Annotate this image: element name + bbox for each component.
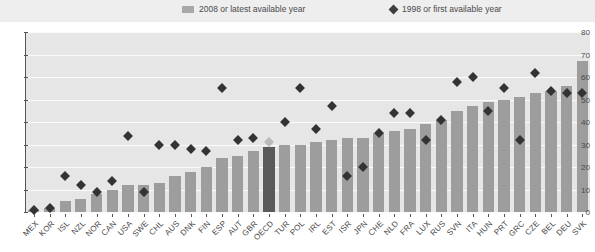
bar-column[interactable] <box>308 32 324 212</box>
bar[interactable] <box>185 172 196 213</box>
bar[interactable] <box>436 120 447 212</box>
bar-column[interactable] <box>136 32 152 212</box>
y-tick-label: 70 <box>570 50 590 59</box>
data-point-marker[interactable] <box>60 171 70 181</box>
bar-column[interactable] <box>245 32 261 212</box>
chart-legend: 2008 or latest available year 1998 or fi… <box>0 0 595 22</box>
bar[interactable] <box>389 131 400 212</box>
bar[interactable] <box>279 145 290 213</box>
bar-column[interactable] <box>418 32 434 212</box>
y-tick-label: 40 <box>570 118 590 127</box>
data-point-marker[interactable] <box>217 83 227 93</box>
bar[interactable] <box>514 97 525 212</box>
bar[interactable] <box>498 100 509 213</box>
x-tick-label: JPN <box>352 219 369 236</box>
bar[interactable] <box>154 183 165 212</box>
bar-column[interactable] <box>42 32 58 212</box>
bar-column[interactable] <box>261 32 277 212</box>
bar[interactable] <box>310 142 321 212</box>
data-point-marker[interactable] <box>154 140 164 150</box>
bar-column[interactable] <box>496 32 512 212</box>
data-point-marker[interactable] <box>405 108 415 118</box>
x-tick-mark <box>238 214 239 217</box>
bar[interactable] <box>75 199 86 213</box>
bar[interactable] <box>107 190 118 213</box>
y-tick-label: 30 <box>570 140 590 149</box>
bar-column[interactable] <box>214 32 230 212</box>
bar-column[interactable] <box>120 32 136 212</box>
bar[interactable] <box>357 138 368 212</box>
data-point-marker[interactable] <box>233 135 243 145</box>
bar-column[interactable] <box>512 32 528 212</box>
bar[interactable] <box>467 106 478 212</box>
x-tick-mark <box>50 214 51 217</box>
bar-column[interactable] <box>543 32 559 212</box>
bar-column[interactable] <box>402 32 418 212</box>
bar-column[interactable] <box>89 32 105 212</box>
bar-column[interactable] <box>433 32 449 212</box>
bar[interactable] <box>451 111 462 212</box>
data-point-marker[interactable] <box>280 117 290 127</box>
data-point-marker[interactable] <box>248 133 258 143</box>
bar[interactable] <box>404 129 415 212</box>
data-point-marker[interactable] <box>295 83 305 93</box>
data-point-marker[interactable] <box>76 180 86 190</box>
bar-column[interactable] <box>230 32 246 212</box>
bar-column[interactable] <box>57 32 73 212</box>
bar[interactable] <box>545 91 556 213</box>
data-point-marker[interactable] <box>530 68 540 78</box>
x-tick-mark <box>65 214 66 217</box>
legend-item-marker-series: 1998 or first available year <box>390 4 502 14</box>
data-point-marker[interactable] <box>452 77 462 87</box>
bar[interactable] <box>373 133 384 212</box>
bar[interactable] <box>169 176 180 212</box>
data-point-marker[interactable] <box>186 144 196 154</box>
bar-column[interactable] <box>339 32 355 212</box>
bar-column[interactable] <box>355 32 371 212</box>
bar-column[interactable] <box>292 32 308 212</box>
bar[interactable] <box>216 158 227 212</box>
data-point-marker[interactable] <box>499 83 509 93</box>
data-point-marker[interactable] <box>264 137 274 147</box>
bar[interactable] <box>60 201 71 212</box>
x-tick-column: KOR <box>42 214 58 252</box>
bar[interactable] <box>122 185 133 212</box>
data-point-marker[interactable] <box>311 124 321 134</box>
bar[interactable] <box>232 156 243 212</box>
bar[interactable] <box>530 93 541 212</box>
bar-column[interactable] <box>277 32 293 212</box>
bar-column[interactable] <box>104 32 120 212</box>
x-tick-mark <box>410 214 411 217</box>
bar[interactable] <box>326 140 337 212</box>
bar-column[interactable] <box>151 32 167 212</box>
data-point-marker[interactable] <box>327 101 337 111</box>
bar-column[interactable] <box>198 32 214 212</box>
x-tick-mark <box>112 214 113 217</box>
data-point-marker[interactable] <box>468 72 478 82</box>
bar[interactable] <box>483 102 494 212</box>
bar[interactable] <box>248 151 259 212</box>
bar-column[interactable] <box>324 32 340 212</box>
bar[interactable] <box>295 145 306 213</box>
x-tick-mark <box>332 214 333 217</box>
bar-column[interactable] <box>167 32 183 212</box>
data-point-marker[interactable] <box>170 140 180 150</box>
data-point-marker[interactable] <box>201 146 211 156</box>
bar-column[interactable] <box>480 32 496 212</box>
bar-column[interactable] <box>73 32 89 212</box>
bar-column[interactable] <box>528 32 544 212</box>
x-tick-column: EST <box>324 214 340 252</box>
bar-column[interactable] <box>449 32 465 212</box>
bar-column[interactable] <box>26 32 42 212</box>
data-point-marker[interactable] <box>389 108 399 118</box>
data-point-marker[interactable] <box>107 176 117 186</box>
bar-column[interactable] <box>371 32 387 212</box>
bar[interactable] <box>263 147 274 212</box>
chart-root: 2008 or latest available year 1998 or fi… <box>0 0 595 252</box>
data-point-marker[interactable] <box>123 131 133 141</box>
bar[interactable] <box>201 167 212 212</box>
plot-area-wrapper: 01020304050607080 MEXKORISLNZLNORCANUSAS… <box>0 26 595 252</box>
bar-column[interactable] <box>386 32 402 212</box>
bar-column[interactable] <box>183 32 199 212</box>
bar-column[interactable] <box>465 32 481 212</box>
